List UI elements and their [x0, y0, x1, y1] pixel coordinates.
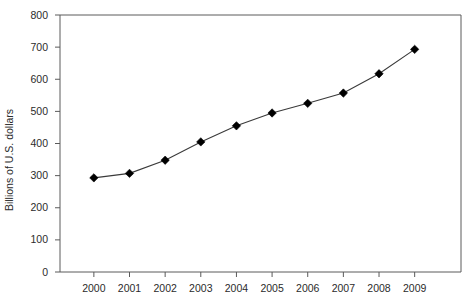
y-tick-label: 400 — [30, 137, 48, 149]
plot-frame — [60, 15, 461, 272]
y-tick-label: 500 — [30, 105, 48, 117]
y-axis-title-text: Billions of U.S. dollars — [3, 109, 15, 211]
data-series — [90, 45, 419, 182]
data-point-marker — [339, 89, 347, 97]
x-tick-label: 2008 — [367, 282, 391, 294]
y-tick-label: 700 — [30, 41, 48, 53]
y-axis-title: Billions of U.S. dollars — [3, 109, 15, 211]
data-point-marker — [197, 138, 205, 146]
series-line — [94, 49, 415, 178]
data-point-marker — [304, 99, 312, 107]
series-markers — [90, 45, 419, 182]
x-tick-label: 2003 — [189, 282, 213, 294]
x-tick-label: 2000 — [82, 282, 106, 294]
x-tick-label: 2005 — [260, 282, 284, 294]
data-point-marker — [125, 169, 133, 177]
line-chart: Billions of U.S. dollars 010020030040050… — [0, 0, 469, 306]
data-point-marker — [232, 122, 240, 130]
data-point-marker — [375, 70, 383, 78]
data-point-marker — [161, 156, 169, 164]
data-point-marker — [90, 174, 98, 182]
plot-frame-border — [60, 15, 461, 272]
y-tick-label: 100 — [30, 233, 48, 245]
chart-page: Billions of U.S. dollars 010020030040050… — [0, 0, 469, 306]
y-tick-label: 300 — [30, 169, 48, 181]
y-tick-label: 200 — [30, 201, 48, 213]
data-point-marker — [410, 45, 418, 53]
x-tick-label: 2009 — [403, 282, 427, 294]
data-point-marker — [268, 109, 276, 117]
x-axis-tick-labels: 2000200120022003200420052006200720082009 — [82, 282, 426, 294]
y-axis-tick-marks — [55, 15, 60, 272]
x-tick-label: 2001 — [118, 282, 142, 294]
x-tick-label: 2007 — [332, 282, 356, 294]
x-tick-label: 2004 — [225, 282, 249, 294]
x-tick-label: 2002 — [153, 282, 177, 294]
y-axis-tick-labels: 0100200300400500600700800 — [30, 9, 48, 278]
y-tick-label: 800 — [30, 9, 48, 21]
x-tick-label: 2006 — [296, 282, 320, 294]
y-tick-label: 0 — [42, 266, 48, 278]
x-axis-tick-marks — [94, 272, 415, 277]
y-tick-label: 600 — [30, 73, 48, 85]
